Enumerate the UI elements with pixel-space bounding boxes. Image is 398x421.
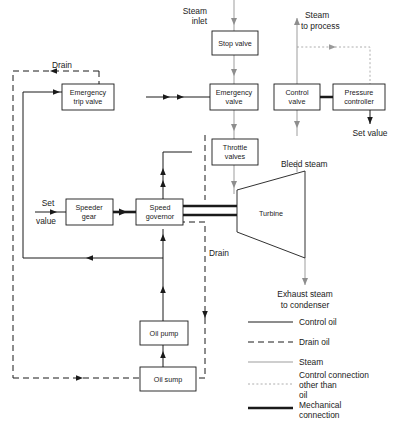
control-valve-label-line2: valve bbox=[289, 97, 306, 106]
legend-label-control-connection-line2: other than bbox=[299, 380, 337, 390]
box-oil-sump[interactable]: Oil sump bbox=[140, 367, 196, 391]
arrow-drain-governor bbox=[202, 311, 208, 318]
arrow-control-sump-pump bbox=[160, 351, 166, 358]
stop-valve-label: Stop valve bbox=[218, 39, 252, 48]
turbine-label: Turbine bbox=[259, 209, 283, 218]
box-emergency-valve[interactable]: Emergency valve bbox=[210, 84, 258, 110]
legend-item-control-connection: Control connection other than oil bbox=[248, 370, 369, 400]
arrow-set-value-right bbox=[367, 117, 373, 124]
emergency-valve-label-line2: valve bbox=[226, 97, 243, 106]
legend: Control oil Drain oil Steam Control conn… bbox=[248, 317, 369, 420]
arrow-control-bottom-rail bbox=[86, 255, 93, 261]
arrow-control-pump-riser-1 bbox=[160, 286, 166, 293]
box-emergency-trip-valve[interactable]: Emergency trip valve bbox=[62, 84, 114, 110]
box-control-valve[interactable]: Control valve bbox=[274, 84, 320, 110]
arrow-steam-emergency-throttle bbox=[231, 124, 237, 131]
steam-inlet-label-line2: inlet bbox=[192, 16, 208, 26]
legend-label-control-connection-line3: oil bbox=[299, 390, 308, 400]
set-value-left-label-line2: value bbox=[36, 216, 56, 226]
oil-pump-label: Oil pump bbox=[150, 329, 179, 338]
drain-line-right-lower bbox=[196, 318, 205, 378]
legend-item-drain-oil: Drain oil bbox=[248, 337, 330, 347]
arrow-steam-control-valve-in bbox=[294, 121, 300, 128]
drain-top-label: Drain bbox=[52, 60, 72, 70]
set-value-right-label: Set value bbox=[353, 128, 388, 138]
exhaust-steam-label-line2: to condenser bbox=[281, 300, 330, 310]
throttle-valves-label-line1: Throttle bbox=[223, 143, 247, 152]
arrow-steam-exhaust bbox=[302, 278, 308, 285]
exhaust-steam-label-line1: Exhaust steam bbox=[277, 289, 332, 299]
speeder-gear-label-line1: Speeder bbox=[75, 203, 103, 212]
control-valve-label-line1: Control bbox=[285, 88, 309, 97]
arrow-steam-throttle-turbine bbox=[231, 181, 237, 188]
steam-to-process-label-line2: to process bbox=[301, 21, 340, 31]
drain-line-governor bbox=[179, 222, 205, 318]
arrow-drain-bottom bbox=[76, 375, 83, 381]
emergency-valve-label-line1: Emergency bbox=[216, 88, 253, 97]
arrow-control-left-riser bbox=[53, 89, 60, 95]
set-value-left-label-line1: Set bbox=[42, 198, 55, 208]
drain-mid-label: Drain bbox=[209, 248, 229, 258]
speed-governor-label-line2: governor bbox=[146, 212, 175, 221]
arrow-control-trip-emergency-2 bbox=[177, 94, 184, 100]
box-throttle-valves[interactable]: Throttle valves bbox=[212, 139, 258, 165]
legend-label-mechanical-line2: connection bbox=[299, 410, 340, 420]
turbine: Turbine bbox=[237, 171, 305, 258]
arrow-control-pump-riser-2 bbox=[160, 234, 166, 241]
arrow-steam-stop-emergency bbox=[231, 69, 237, 76]
legend-label-control-oil: Control oil bbox=[299, 317, 337, 327]
legend-item-mechanical: Mechanical connection bbox=[248, 400, 342, 420]
steam-inlet-label-line1: Steam bbox=[183, 6, 207, 16]
legend-label-control-connection-line1: Control connection bbox=[299, 370, 369, 380]
steam-to-process-label-line1: Steam bbox=[305, 10, 329, 20]
legend-item-control-oil: Control oil bbox=[248, 317, 337, 327]
turbine-control-diagram: Turbine Stop valve Emergency valve Contr… bbox=[0, 0, 398, 421]
pressure-controller-label-line1: Pressure bbox=[345, 88, 374, 97]
legend-label-mechanical-line1: Mechanical bbox=[299, 400, 342, 410]
box-oil-pump[interactable]: Oil pump bbox=[140, 321, 188, 345]
arrow-steam-to-process bbox=[294, 18, 300, 25]
dotted-line-process-to-controller bbox=[297, 47, 370, 84]
control-line-governor-to-throttle bbox=[163, 152, 192, 200]
control-connection-dotted bbox=[297, 44, 370, 84]
box-speed-governor[interactable]: Speed governor bbox=[136, 199, 183, 225]
bleed-steam-label: Bleed steam bbox=[281, 159, 328, 169]
throttle-valves-label-line2: valves bbox=[225, 152, 246, 161]
arrow-set-value-left bbox=[50, 209, 57, 215]
legend-item-steam: Steam bbox=[248, 357, 323, 367]
speed-governor-label-line1: Speed bbox=[150, 203, 171, 212]
arrow-mech-speeder-governor bbox=[119, 208, 127, 215]
control-line-left-riser bbox=[23, 92, 99, 258]
oil-sump-label: Oil sump bbox=[154, 375, 182, 384]
box-stop-valve[interactable]: Stop valve bbox=[212, 31, 258, 55]
diagram-canvas: Turbine Stop valve Emergency valve Contr… bbox=[0, 0, 398, 421]
arrow-control-trip-emergency-1 bbox=[163, 94, 170, 100]
component-boxes: Stop valve Emergency valve Control valve… bbox=[62, 31, 385, 391]
box-pressure-controller[interactable]: Pressure controller bbox=[333, 84, 385, 110]
arrow-steam-inlet bbox=[231, 18, 237, 25]
arrow-control-governor-throttle-2 bbox=[160, 180, 166, 187]
legend-label-steam: Steam bbox=[299, 357, 323, 367]
speeder-gear-label-line2: gear bbox=[82, 212, 97, 221]
arrow-dotted-to-controller bbox=[329, 44, 336, 50]
arrow-control-governor-throttle-1 bbox=[160, 168, 166, 175]
emergency-trip-valve-label-line1: Emergency bbox=[70, 88, 107, 97]
emergency-trip-valve-label-line2: trip valve bbox=[74, 97, 103, 106]
box-speeder-gear[interactable]: Speeder gear bbox=[66, 199, 113, 225]
pressure-controller-label-line2: controller bbox=[344, 97, 374, 106]
legend-label-drain-oil: Drain oil bbox=[299, 337, 330, 347]
